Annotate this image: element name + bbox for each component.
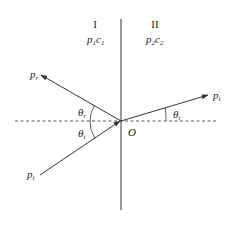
medium-2-label: II: [151, 18, 159, 30]
angle-arc-transmitted: [165, 108, 166, 121]
medium-1-properties: p1c1: [86, 33, 104, 47]
reflected-ray-label: pr: [29, 68, 39, 82]
origin-label: O: [128, 126, 136, 138]
medium-1-label: I: [93, 18, 97, 30]
transmitted-ray: [121, 95, 208, 121]
transmitted-ray-label: pt: [212, 89, 222, 103]
incident-ray-label: pi: [26, 168, 35, 182]
incident-angle-label: θi: [78, 127, 85, 141]
transmitted-angle-label: θt: [173, 108, 181, 122]
medium-2-properties: p2c2: [145, 33, 164, 47]
reflected-angle-label: θr: [78, 106, 86, 120]
reflection-transmission-diagram: I II p1c1 p2c2 pr pi pt θr θi θt O: [0, 0, 231, 227]
angle-arc-left: [90, 106, 95, 138]
